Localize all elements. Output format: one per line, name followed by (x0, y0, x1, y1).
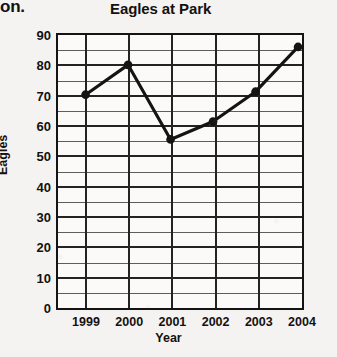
x-axis-tick-label: 2000 (115, 315, 143, 329)
x-axis-tick-label: 1999 (72, 315, 100, 329)
y-axis-tick-label: 20 (37, 240, 51, 255)
y-axis-tick-label: 50 (37, 149, 51, 164)
x-axis-title: Year (0, 331, 337, 345)
data-point-marker (124, 61, 133, 70)
data-point-marker (209, 117, 218, 126)
cropped-text-fragment: on. (0, 0, 25, 17)
x-axis-tick-label: 2001 (158, 315, 186, 329)
plot-area: 0102030405060708090199920002001200220032… (56, 33, 304, 310)
x-axis-tick-label: 2004 (288, 315, 316, 329)
y-axis-title: Eagles (0, 135, 10, 175)
data-point-marker (294, 43, 303, 52)
data-line (86, 47, 299, 140)
x-axis-tick-label: 2003 (245, 315, 273, 329)
y-axis-tick-label: 40 (37, 179, 51, 194)
y-axis-tick-label: 90 (37, 28, 51, 43)
data-series-eagles (58, 35, 302, 308)
chart-title: Eagles at Park (110, 0, 211, 17)
y-axis-tick-label: 0 (44, 301, 51, 316)
chart-screenshot: on. Eagles at Park 010203040506070809019… (0, 0, 337, 357)
y-axis-tick-label: 80 (37, 58, 51, 73)
y-axis-tick-label: 10 (37, 270, 51, 285)
y-axis-tick-label: 70 (37, 88, 51, 103)
data-point-marker (81, 90, 90, 99)
data-point-marker (166, 135, 175, 144)
y-axis-tick-label: 30 (37, 210, 51, 225)
x-axis-tick-label: 2002 (202, 315, 230, 329)
y-axis-tick-label: 60 (37, 119, 51, 134)
data-point-marker (251, 87, 260, 96)
